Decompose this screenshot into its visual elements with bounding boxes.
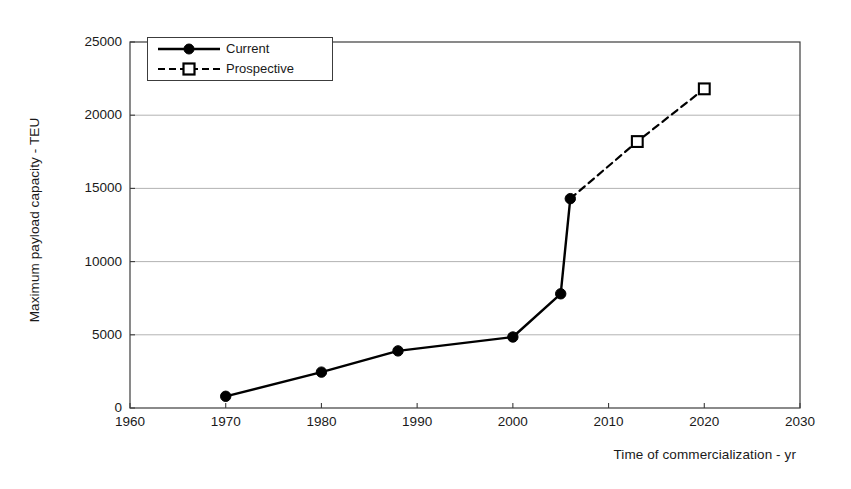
legend-label-prospective: Prospective xyxy=(226,61,294,77)
x-axis-tick-label: 2020 xyxy=(669,414,739,430)
y-axis-tick-label: 10000 xyxy=(52,255,122,269)
data-point-marker xyxy=(221,391,231,401)
x-axis-tick-labels: 19601970198019902000201020202030 xyxy=(0,414,851,434)
chart-figure: 0500010000150002000025000 19601970198019… xyxy=(0,0,851,489)
x-axis-tick-label: 1980 xyxy=(286,414,356,430)
x-axis-tick-label: 2000 xyxy=(478,414,548,430)
data-point-marker xyxy=(508,332,518,342)
data-point-marker xyxy=(316,367,326,377)
x-axis-tick-label: 1970 xyxy=(191,414,261,430)
x-axis-tick-label: 1990 xyxy=(382,414,452,430)
data-point-marker xyxy=(632,136,643,147)
y-axis-tick-label: 15000 xyxy=(52,181,122,195)
x-axis-tick-label: 2010 xyxy=(574,414,644,430)
legend-label-current: Current xyxy=(226,41,269,57)
y-axis-tick-label: 25000 xyxy=(52,35,122,49)
y-axis-title: Maximum payload capacity - TEU xyxy=(22,7,48,433)
legend-key-dashed-square-icon xyxy=(156,59,222,79)
y-axis-tick-label: 0 xyxy=(52,401,122,415)
y-axis-tick-label: 5000 xyxy=(52,328,122,342)
legend-entry-current: Current xyxy=(148,39,332,59)
data-point-marker xyxy=(556,289,566,299)
plot-background xyxy=(130,42,800,408)
chart-legend: Current Prospective xyxy=(147,37,333,81)
x-axis-tick-label: 2030 xyxy=(765,414,835,430)
data-point-marker xyxy=(699,83,710,94)
legend-entry-prospective: Prospective xyxy=(148,59,332,79)
x-axis-title: Time of commercialization - yr xyxy=(500,447,796,462)
x-axis-tick-label: 1960 xyxy=(95,414,165,430)
data-point-marker xyxy=(393,346,403,356)
y-axis-tick-label: 20000 xyxy=(52,108,122,122)
legend-key-solid-circle-icon xyxy=(156,39,222,59)
